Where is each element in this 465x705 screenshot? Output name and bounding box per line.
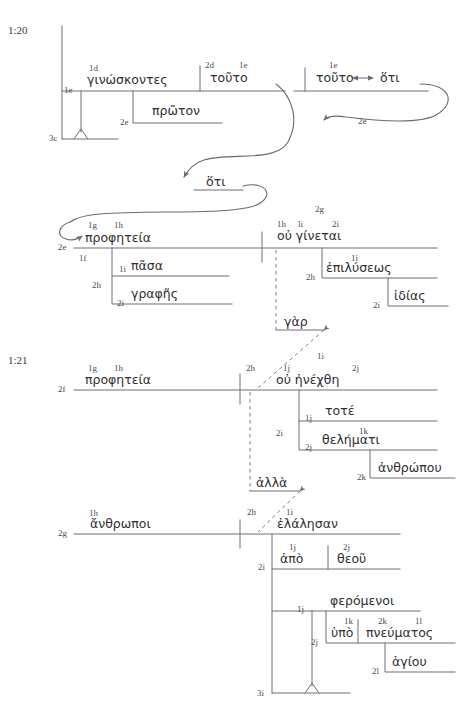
label-2h-epilyseos: 2h — [306, 272, 316, 282]
label-2e-proton: 2e — [120, 117, 129, 127]
label-1e-right: 1e — [329, 60, 338, 70]
label-2h-pasa: 2h — [92, 280, 102, 290]
word-propheteia-2: προφητεία — [85, 372, 151, 387]
word-hypo: ὑπὸ — [331, 625, 353, 640]
label-1d: 1d — [89, 63, 99, 73]
word-anthropou: ἀνθρώπου — [378, 460, 442, 475]
word-gar: γὰρ — [284, 314, 308, 329]
label-2h-enechthe: 2h — [246, 363, 256, 373]
label-2l-hagiou: 2l — [372, 666, 380, 676]
label-1k-thelemati: 1k — [359, 426, 369, 436]
label-1j-tote: 1j — [305, 413, 312, 423]
word-pheromenoi: φερόμενοι — [330, 593, 394, 608]
block-propheteia-2 — [74, 374, 455, 532]
word-graphes: γραφῆς — [131, 286, 178, 301]
label-1l-pneumatos: 1l — [415, 616, 423, 626]
label-2d: 2d — [205, 60, 215, 70]
label-1j-enechthe: 1j — [283, 363, 290, 373]
label-2g: 2g — [315, 204, 325, 214]
label-1i-enechthe: 1i — [317, 351, 325, 361]
label-1h-2: 1h — [277, 219, 287, 229]
word-propheteia-1: προφητεία — [85, 230, 151, 245]
label-2i-mid: 2i — [276, 428, 284, 438]
word-apo: ἀπὸ — [280, 551, 303, 566]
word-ginoskontes: γινώσκοντες — [87, 72, 168, 87]
word-hagiou: ἁγίου — [392, 654, 427, 669]
word-tote: τοτέ — [325, 403, 354, 418]
label-1e-a: 1e — [239, 60, 248, 70]
arc-hoti-hook — [60, 222, 82, 240]
label-2i-idias: 2i — [373, 300, 381, 310]
word-proton: πρῶτον — [152, 103, 200, 118]
label-2j-hypo: 2j — [311, 637, 318, 647]
label-2j-theou: 2j — [343, 542, 350, 552]
verse-ref-layer: 1:20 1:21 — [8, 24, 28, 366]
word-idias: ἰδίας — [394, 288, 426, 303]
word-thelemati: θελήματι — [322, 432, 380, 447]
label-1h-3: 1h — [114, 363, 124, 373]
label-1j-pheromenoi: 1j — [297, 604, 304, 614]
greek-text-layer: γινώσκοντες τοῦτο πρῶτον τοῦτο ὅτι ὅτι π… — [85, 70, 442, 669]
label-1e-left: 1e — [64, 85, 73, 95]
word-touto-1: τοῦτο — [210, 70, 248, 85]
label-3i: 3i — [257, 688, 265, 698]
diagram-page: 1:20 1:21 γινώσκοντες τοῦτο πρῶτον τοῦτο… — [0, 0, 465, 705]
word-pneumatos: πνεύματος — [366, 625, 433, 640]
label-1i-pasa: 1i — [119, 264, 127, 274]
label-2k-pneumatos: 2k — [378, 616, 388, 626]
word-pasa: πᾶσα — [131, 258, 163, 273]
word-ou-enechthe: οὐ ἠνέχθη — [276, 372, 339, 387]
verse-ref-1-20: 1:20 — [8, 24, 28, 36]
label-2f: 2f — [58, 384, 66, 394]
label-2i-graphes: 2i — [117, 298, 125, 308]
label-2i-apo: 2i — [258, 562, 266, 572]
label-2j-thelemati: 2j — [305, 442, 312, 452]
label-2k-anthropou: 2k — [357, 472, 367, 482]
label-1i-elalesan: 1i — [286, 507, 294, 517]
word-ou-ginetai: οὐ γίνεται — [277, 228, 341, 243]
label-2e-arrow: 2e — [358, 116, 367, 126]
word-elalesan: ἐλάλησαν — [277, 516, 338, 531]
word-epilyseos: ἐπιλύσεως — [326, 260, 392, 275]
syntax-diagram-canvas: 1:20 1:21 γινώσκοντες τοῦτο πρῶτον τοῦτο… — [0, 0, 465, 705]
word-alla: ἀλλὰ — [256, 475, 287, 490]
label-2j-enechthe: 2j — [352, 363, 359, 373]
label-2h-alla: 2h — [247, 507, 257, 517]
label-2i-ginetai: 2i — [332, 219, 340, 229]
label-1h-1: 1h — [114, 220, 124, 230]
word-hoti-1: ὅτι — [380, 70, 399, 85]
label-1j-apo: 1j — [289, 542, 296, 552]
word-theou: θεοῦ — [337, 551, 366, 566]
label-1i-epilyseos: 1i — [351, 253, 359, 263]
label-2g-anthropoi: 2g — [58, 528, 68, 538]
label-1g-1: 1g — [88, 220, 98, 230]
label-1k-hypo: 1k — [344, 616, 354, 626]
label-1h-anthropoi: 1h — [89, 508, 99, 518]
label-3c: 3c — [49, 133, 58, 143]
label-1f: 1f — [79, 253, 87, 263]
block-propheteia-1 — [74, 232, 448, 388]
label-li: li — [298, 219, 304, 229]
double-arrow-icon — [352, 76, 374, 81]
arc-touto-to-2e — [324, 84, 448, 121]
word-touto-2: τοῦτο — [316, 70, 354, 85]
verse-ref-1-21: 1:21 — [8, 354, 28, 366]
bracket-tote — [299, 390, 437, 421]
word-hoti-2: ὅτι — [206, 174, 225, 189]
label-2e-propheteia: 2e — [58, 242, 67, 252]
label-1g-2: 1g — [88, 363, 98, 373]
bracket-pasa — [112, 248, 229, 276]
word-anthropoi: ἄνθρωποι — [90, 516, 151, 531]
